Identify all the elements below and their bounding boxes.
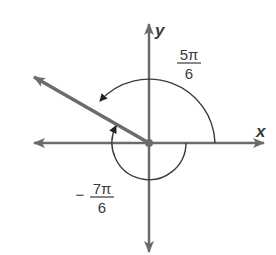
angle-diagram: y x 5π 6 − 7π 6 bbox=[0, 0, 276, 255]
origin-point bbox=[145, 139, 153, 147]
positive-angle-numerator: 5π bbox=[180, 46, 199, 63]
positive-angle-denominator: 6 bbox=[185, 65, 193, 82]
positive-angle-label: 5π 6 bbox=[177, 46, 201, 82]
negative-angle-numerator: 7π bbox=[93, 180, 112, 197]
terminal-ray bbox=[34, 77, 149, 143]
negative-angle-denominator: 6 bbox=[98, 199, 106, 216]
y-axis-label: y bbox=[154, 21, 166, 40]
negative-angle-label: − 7π 6 bbox=[76, 180, 114, 216]
x-axis-label: x bbox=[255, 122, 267, 141]
negative-angle-sign: − bbox=[76, 186, 85, 203]
positive-angle-arc bbox=[100, 79, 215, 143]
